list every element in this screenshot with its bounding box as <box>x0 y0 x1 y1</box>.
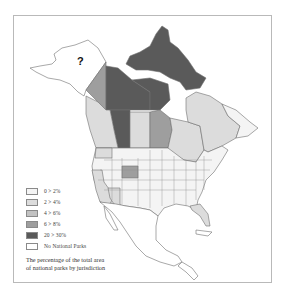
region-wyoming[interactable] <box>122 166 138 178</box>
legend-swatch <box>26 210 38 217</box>
legend-label: 2 > 4% <box>44 199 61 205</box>
legend-item-2-4: 2 > 4% <box>26 197 86 207</box>
map-caption: The percentage of the total area of nati… <box>26 256 136 271</box>
region-manitoba[interactable] <box>150 110 172 148</box>
legend: 0 > 2% 2 > 4% 4 > 6% 6 > 8% 20 > 30% No … <box>26 186 86 252</box>
legend-item-6-8: 6 > 8% <box>26 219 86 229</box>
legend-label: 4 > 6% <box>44 210 61 216</box>
legend-label: 6 > 8% <box>44 221 61 227</box>
legend-swatch <box>26 188 38 195</box>
region-central-america[interactable] <box>178 262 198 280</box>
legend-item-20-30: 20 > 30% <box>26 230 86 240</box>
legend-item-0-2: 0 > 2% <box>26 186 86 196</box>
legend-swatch <box>26 232 38 239</box>
legend-swatch <box>26 243 38 250</box>
legend-label: 20 > 30% <box>44 232 66 238</box>
caption-line-1: The percentage of the total area <box>26 256 136 264</box>
legend-label: No National Parks <box>44 243 86 249</box>
region-washington[interactable] <box>95 148 112 158</box>
unknown-marker: ? <box>77 55 84 67</box>
legend-swatch <box>26 221 38 228</box>
legend-item-4-6: 4 > 6% <box>26 208 86 218</box>
region-saskatchewan[interactable] <box>130 112 150 148</box>
region-northwest-territories[interactable] <box>106 66 150 110</box>
region-cuba[interactable] <box>196 230 212 236</box>
region-florida[interactable] <box>190 204 210 226</box>
legend-swatch <box>26 199 38 206</box>
legend-label: 0 > 2% <box>44 188 61 194</box>
legend-item-none: No National Parks <box>26 241 86 251</box>
caption-line-2: of national parks by jurisdiction <box>26 264 136 272</box>
